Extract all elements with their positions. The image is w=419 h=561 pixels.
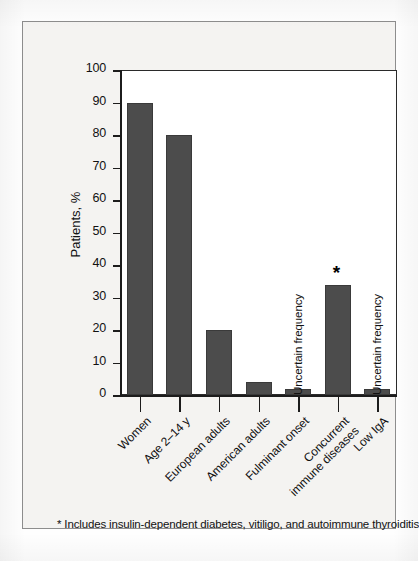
y-axis-tick-label: 90 bbox=[92, 94, 106, 108]
chart-footnote: * Includes insulin-dependent diabetes, v… bbox=[57, 518, 419, 530]
x-axis-tick-mark bbox=[259, 396, 261, 412]
y-axis-tick-mark bbox=[113, 200, 120, 202]
y-axis-tick-mark bbox=[113, 135, 120, 137]
y-axis-tick-mark bbox=[113, 168, 120, 170]
y-axis-tick-mark bbox=[113, 70, 120, 72]
bar-annotation: Uncertain frequency bbox=[371, 293, 383, 394]
y-axis-tick-label: 0 bbox=[99, 386, 106, 400]
y-axis-tick-mark bbox=[113, 233, 120, 235]
y-axis-tick-label: 80 bbox=[92, 126, 106, 140]
bar bbox=[166, 135, 192, 395]
x-axis-category-label-line: Women bbox=[115, 414, 154, 453]
bar bbox=[325, 285, 351, 396]
chart-panel: 1009080706050403020100 Patients, % Uncer… bbox=[22, 21, 396, 529]
x-axis-tick-mark bbox=[298, 396, 300, 412]
y-axis-tick-label: 40 bbox=[92, 256, 106, 270]
y-axis-tick-label: 10 bbox=[92, 354, 106, 368]
x-axis-tick-mark bbox=[377, 396, 379, 412]
y-axis-tick-mark bbox=[113, 395, 120, 397]
y-axis-tick-label: 30 bbox=[92, 289, 106, 303]
x-axis-tick-mark bbox=[179, 396, 181, 412]
y-axis-tick-mark bbox=[113, 103, 120, 105]
plot-area bbox=[120, 70, 397, 395]
y-axis-tick-label: 60 bbox=[92, 191, 106, 205]
bar-annotation: Uncertain frequency bbox=[292, 293, 304, 394]
y-axis-tick-mark bbox=[113, 265, 120, 267]
y-axis-tick-label: 50 bbox=[92, 224, 106, 238]
y-axis-tick-mark bbox=[113, 298, 120, 300]
x-axis-tick-mark bbox=[219, 396, 221, 412]
x-axis-tick-mark bbox=[338, 396, 340, 412]
asterisk-marker: * bbox=[333, 263, 340, 282]
y-axis-title: Patients, % bbox=[68, 165, 83, 285]
y-axis-tick-label: 20 bbox=[92, 321, 106, 335]
y-axis-spine bbox=[120, 70, 122, 396]
bar bbox=[127, 103, 153, 396]
y-axis-tick-mark bbox=[113, 330, 120, 332]
y-axis-tick-label: 100 bbox=[86, 61, 106, 75]
bar bbox=[246, 382, 272, 395]
y-axis-tick-label: 70 bbox=[92, 159, 106, 173]
bar bbox=[206, 330, 232, 395]
x-axis-spine bbox=[114, 395, 397, 397]
y-axis-tick-mark bbox=[113, 363, 120, 365]
x-axis-tick-mark bbox=[140, 396, 142, 412]
